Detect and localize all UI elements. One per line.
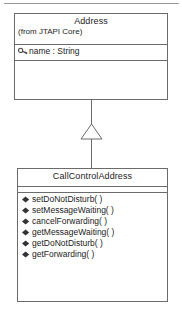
- filled-diamond-icon: [21, 195, 31, 204]
- filled-diamond-icon: [21, 250, 31, 259]
- class-name-callcontroladdress: CallControlAddress: [18, 169, 167, 182]
- operation-list-callcontroladdress: setDoNotDisturb( ) setMessageWaiting( ): [18, 193, 167, 261]
- class-name-compartment-callcontroladdress: CallControlAddress: [18, 169, 167, 186]
- operation-label: setMessageWaiting( ): [32, 205, 114, 216]
- operation-row[interactable]: getForwarding( ): [18, 249, 167, 260]
- operation-row[interactable]: getDoNotDisturb( ): [18, 238, 167, 249]
- operation-row[interactable]: cancelForwarding( ): [18, 216, 167, 227]
- class-name-address: Address: [15, 14, 167, 27]
- attribute-row[interactable]: name : String: [15, 46, 167, 57]
- class-name-compartment-address: Address (from JTAPI Core): [15, 14, 167, 44]
- page-rule: [4, 3, 179, 4]
- attribute-list-address: name : String: [15, 45, 167, 58]
- class-attributes-compartment-address: name : String: [15, 44, 167, 60]
- operation-row[interactable]: getMessageWaiting( ): [18, 227, 167, 238]
- class-operations-compartment-callcontroladdress: setDoNotDisturb( ) setMessageWaiting( ): [18, 192, 167, 301]
- uml-class-diagram-canvas: Address (from JTAPI Core) name : String: [0, 0, 182, 313]
- filled-diamond-icon: [21, 206, 31, 215]
- class-box-callcontroladdress[interactable]: CallControlAddress setDoNotDisturb( ): [17, 168, 168, 302]
- operation-label: getMessageWaiting( ): [32, 227, 114, 238]
- operation-label: getForwarding( ): [32, 249, 94, 260]
- operation-label: getDoNotDisturb( ): [32, 238, 103, 249]
- filled-diamond-icon: [21, 239, 31, 248]
- generalization-line-lower: [91, 139, 92, 168]
- operation-row[interactable]: setDoNotDisturb( ): [18, 194, 167, 205]
- class-stereotype-address: (from JTAPI Core): [15, 27, 167, 39]
- operation-label: setDoNotDisturb( ): [32, 194, 102, 205]
- filled-diamond-icon: [21, 217, 31, 226]
- class-operations-compartment-address: [15, 60, 167, 99]
- attribute-label: name : String: [29, 46, 80, 57]
- filled-diamond-icon: [21, 228, 31, 237]
- operation-label: cancelForwarding( ): [32, 216, 107, 227]
- class-box-address[interactable]: Address (from JTAPI Core) name : String: [14, 13, 168, 100]
- generalization-line-upper: [91, 100, 92, 124]
- key-icon: [18, 47, 28, 56]
- operation-row[interactable]: setMessageWaiting( ): [18, 205, 167, 216]
